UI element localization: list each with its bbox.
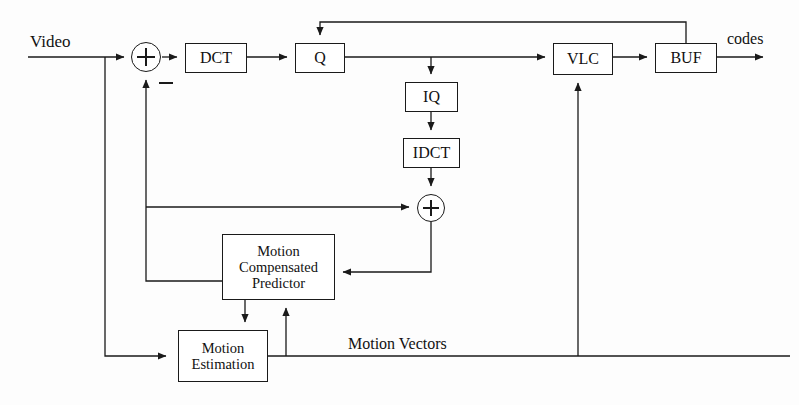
sum-adder-icon[interactable] bbox=[417, 194, 445, 222]
block-mcp-label-line-2: Compensated bbox=[239, 259, 318, 275]
block-vlc[interactable]: VLC bbox=[553, 43, 613, 75]
codes-label: codes bbox=[727, 30, 763, 48]
subtract-adder-icon[interactable] bbox=[131, 42, 161, 72]
block-me-label-line-1: Motion bbox=[192, 340, 255, 356]
wire-mcp-to-subtract-adder bbox=[146, 80, 222, 281]
block-dct[interactable]: DCT bbox=[185, 43, 247, 73]
block-q[interactable]: Q bbox=[295, 43, 345, 73]
block-buf-label: BUF bbox=[670, 49, 701, 67]
block-mcp-label-line-1: Motion bbox=[239, 243, 318, 259]
block-buf[interactable]: BUF bbox=[655, 43, 717, 73]
block-me-label-line-2: Estimation bbox=[192, 356, 255, 372]
motion-vectors-label: Motion Vectors bbox=[348, 335, 447, 353]
block-dct-label: DCT bbox=[200, 49, 232, 67]
video-label: Video bbox=[30, 32, 71, 52]
block-idct[interactable]: IDCT bbox=[403, 138, 460, 168]
block-motion-estimation[interactable]: Motion Estimation bbox=[178, 330, 268, 382]
block-mcp-label-line-3: Predictor bbox=[239, 275, 318, 291]
block-q-label: Q bbox=[314, 49, 326, 67]
wire-sum-adder-to-mcp bbox=[343, 222, 431, 272]
block-motion-compensated-predictor[interactable]: Motion Compensated Predictor bbox=[222, 234, 335, 300]
block-idct-label: IDCT bbox=[413, 144, 450, 162]
block-vlc-label: VLC bbox=[567, 50, 599, 68]
block-iq-label: IQ bbox=[423, 88, 440, 106]
block-iq[interactable]: IQ bbox=[405, 82, 458, 112]
minus-sign-icon bbox=[159, 82, 173, 84]
wire-buf-feedback-to-q bbox=[320, 22, 686, 43]
encoder-block-diagram: DCT Q VLC BUF IQ IDCT Motion Compensated… bbox=[0, 0, 799, 405]
